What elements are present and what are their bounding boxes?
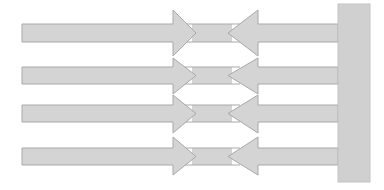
left-pointing-arrow-4 [228,137,338,175]
arrow-connector-2 [192,67,232,84]
right-pointing-arrow-3 [22,95,196,133]
arrow-diagram [0,0,384,190]
right-pointing-arrow-1 [22,10,196,56]
right-pointing-arrow-2 [22,58,196,94]
arrow-connector-4 [192,148,232,165]
left-pointing-arrow-3 [228,95,338,133]
wall-block [338,4,370,182]
right-pointing-arrow-4 [22,137,196,175]
left-pointing-arrow-2 [228,58,338,94]
arrow-connector-3 [192,105,232,122]
left-pointing-arrow-1 [228,10,338,56]
arrow-connector-1 [192,24,232,42]
